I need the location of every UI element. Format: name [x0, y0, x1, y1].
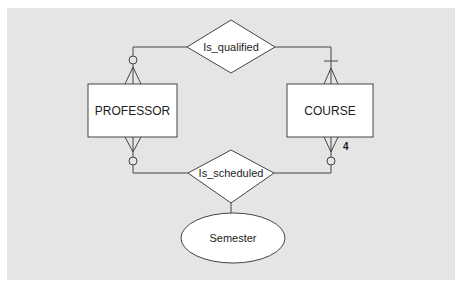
relationship-is-scheduled-label: Is_scheduled	[199, 167, 264, 179]
connector-is-qualified-course	[275, 47, 331, 84]
attribute-semester: Semester	[181, 213, 285, 263]
attribute-semester-label: Semester	[209, 232, 256, 244]
relationship-is-scheduled: Is_scheduled	[188, 150, 274, 203]
entity-professor-label: PROFESSOR	[95, 104, 171, 118]
relationship-is-qualified: Is_qualified	[187, 20, 275, 73]
relationship-is-qualified-label: Is_qualified	[203, 41, 259, 53]
connector-is-scheduled-course	[274, 137, 331, 173]
entity-professor: PROFESSOR	[88, 84, 177, 137]
cardinality-label-course: 4	[343, 141, 349, 152]
connector-professor-is-qualified	[133, 47, 187, 84]
entity-course: COURSE	[287, 84, 373, 137]
er-diagram: PROFESSOR COURSE Is_qualified Is_schedul…	[0, 0, 457, 283]
entity-course-label: COURSE	[304, 104, 355, 118]
connector-professor-is-scheduled	[133, 137, 188, 173]
